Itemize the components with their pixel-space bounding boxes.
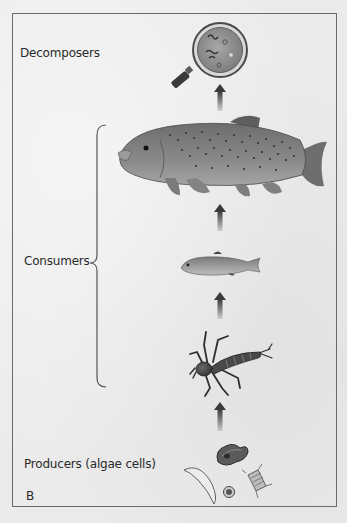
- algae-cells-icon: [184, 444, 272, 504]
- arrow-up-icon: [214, 402, 226, 431]
- insect-larva-icon: [190, 332, 272, 396]
- trout-icon: [118, 116, 327, 197]
- magnifying-glass-icon: [171, 23, 247, 89]
- small-fish-icon: [181, 252, 260, 276]
- arrow-up-icon: [214, 84, 226, 111]
- arrow-up-icon: [214, 292, 226, 319]
- arrow-up-icon: [214, 204, 226, 231]
- brace-icon: [90, 125, 106, 387]
